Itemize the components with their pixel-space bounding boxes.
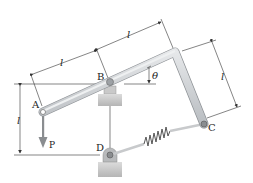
pin-B bbox=[107, 79, 114, 86]
lever-spring-diagram: l l l l bbox=[0, 0, 253, 183]
load-P-label: P bbox=[49, 140, 55, 150]
spring bbox=[110, 124, 204, 155]
label-A: A bbox=[31, 99, 40, 110]
pin-D bbox=[107, 152, 113, 158]
theta-label: θ bbox=[152, 70, 158, 81]
dimension-right bbox=[182, 40, 241, 118]
label-B: B bbox=[97, 71, 104, 82]
dim-label-vertical: l bbox=[17, 115, 20, 126]
label-D: D bbox=[96, 142, 104, 153]
label-C: C bbox=[208, 122, 216, 133]
lever-ABC bbox=[43, 51, 204, 124]
load-P-arrow bbox=[39, 116, 48, 148]
dim-label-B-corner: l bbox=[127, 29, 130, 40]
dim-label-corner-C: l bbox=[221, 71, 224, 82]
pin-A bbox=[41, 110, 46, 115]
dim-label-AB: l bbox=[60, 57, 63, 68]
pin-C bbox=[201, 121, 207, 127]
